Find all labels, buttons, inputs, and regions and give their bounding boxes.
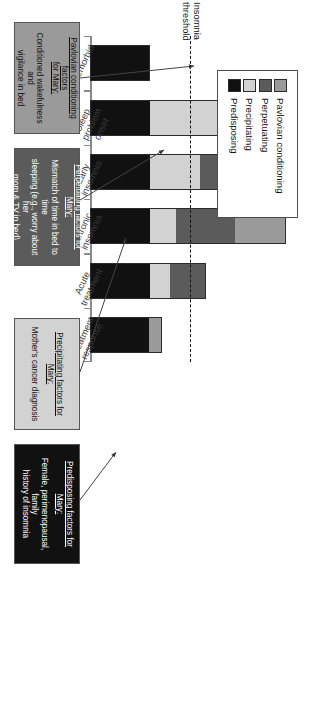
leader-arrowhead-icon	[122, 238, 126, 243]
leader-line	[80, 66, 194, 78]
figure-canvas: Insomnia threshold PremorbidSleep proble…	[0, 0, 312, 714]
leader-line	[80, 452, 116, 500]
leader-line	[80, 238, 126, 372]
leader-lines	[0, 0, 312, 714]
leader-arrowhead-icon	[111, 452, 116, 457]
leader-line	[80, 150, 164, 200]
